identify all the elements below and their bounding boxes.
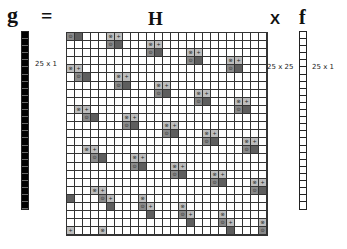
matrix-cell bbox=[155, 106, 163, 114]
matrix-cell bbox=[171, 195, 179, 203]
matrix-cell-x-icon: ⊗ bbox=[75, 106, 83, 114]
matrix-cell bbox=[131, 41, 139, 49]
matrix-cell bbox=[131, 211, 139, 219]
matrix-cell-dot-icon: ⊙ bbox=[259, 227, 267, 235]
vector-element bbox=[300, 75, 306, 82]
matrix-cell bbox=[107, 106, 115, 114]
matrix-cell bbox=[187, 130, 195, 138]
matrix-cell bbox=[107, 219, 115, 227]
matrix-cell bbox=[83, 98, 91, 106]
matrix-cell bbox=[227, 49, 235, 57]
matrix-cell-dot-icon: ⊙ bbox=[179, 211, 187, 219]
matrix-cell bbox=[83, 179, 91, 187]
matrix-cell bbox=[251, 227, 259, 235]
matrix-cell-x-icon: ⊗ bbox=[155, 82, 163, 90]
matrix-cell-x-icon: ⊗ bbox=[115, 73, 123, 81]
matrix-cell bbox=[83, 82, 91, 90]
vector-element bbox=[22, 82, 28, 89]
matrix-cell-x-icon: ⊗ bbox=[187, 49, 195, 57]
matrix-cell bbox=[211, 33, 219, 41]
matrix-cell bbox=[115, 138, 123, 146]
matrix-cell-x-icon: ⊗ bbox=[107, 33, 115, 41]
matrix-cell bbox=[107, 82, 115, 90]
matrix-cell bbox=[147, 90, 155, 98]
matrix-cell bbox=[195, 57, 203, 65]
matrix-cell bbox=[107, 138, 115, 146]
matrix-cell bbox=[195, 122, 203, 130]
matrix-cell bbox=[155, 227, 163, 235]
matrix-cell-x-icon: ⊗ bbox=[259, 219, 267, 227]
matrix-cell bbox=[251, 114, 259, 122]
matrix-cell-x-icon: ⊗ bbox=[163, 122, 171, 130]
matrix-cell bbox=[243, 227, 251, 235]
matrix-cell bbox=[203, 187, 211, 195]
matrix-cell bbox=[179, 41, 187, 49]
matrix-cell bbox=[211, 227, 219, 235]
matrix-cell bbox=[83, 33, 91, 41]
vector-element bbox=[22, 103, 28, 110]
matrix-cell bbox=[243, 41, 251, 49]
matrix-cell bbox=[203, 65, 211, 73]
matrix-cell bbox=[155, 187, 163, 195]
matrix-cell bbox=[155, 65, 163, 73]
matrix-cell bbox=[163, 106, 171, 114]
matrix-cell bbox=[99, 163, 107, 171]
matrix-cell bbox=[211, 146, 219, 154]
matrix-cell bbox=[131, 49, 139, 57]
matrix-cell bbox=[147, 163, 155, 171]
matrix-cell bbox=[107, 114, 115, 122]
matrix-cell bbox=[203, 98, 211, 106]
matrix-cell bbox=[195, 41, 203, 49]
matrix-cell bbox=[227, 138, 235, 146]
matrix-cell bbox=[251, 203, 259, 211]
matrix-cell bbox=[155, 122, 163, 130]
matrix-cell bbox=[99, 179, 107, 187]
matrix-cell bbox=[219, 33, 227, 41]
matrix-cell bbox=[219, 179, 227, 187]
matrix-cell-plus-icon: + bbox=[83, 106, 91, 114]
matrix-cell bbox=[67, 82, 75, 90]
vector-element bbox=[22, 96, 28, 103]
matrix-cell bbox=[187, 195, 195, 203]
matrix-cell bbox=[75, 195, 83, 203]
matrix-cell bbox=[203, 146, 211, 154]
matrix-cell bbox=[179, 114, 187, 122]
matrix-cell bbox=[67, 203, 75, 211]
matrix-cell bbox=[195, 106, 203, 114]
matrix-cell bbox=[107, 49, 115, 57]
vector-element bbox=[300, 181, 306, 188]
matrix-cell bbox=[155, 146, 163, 154]
matrix-cell-plus-icon: + bbox=[107, 195, 115, 203]
matrix-cell bbox=[195, 33, 203, 41]
matrix-cell bbox=[259, 114, 267, 122]
matrix-cell bbox=[139, 138, 147, 146]
matrix-cell bbox=[147, 82, 155, 90]
matrix-cell bbox=[147, 146, 155, 154]
matrix-cell bbox=[171, 130, 179, 138]
matrix-cell bbox=[219, 138, 227, 146]
matrix-cell bbox=[91, 82, 99, 90]
matrix-cell bbox=[131, 57, 139, 65]
matrix-cell bbox=[123, 211, 131, 219]
matrix-cell bbox=[123, 41, 131, 49]
matrix-cell bbox=[155, 98, 163, 106]
matrix-cell bbox=[227, 33, 235, 41]
matrix-cell bbox=[75, 41, 83, 49]
matrix-cell bbox=[195, 73, 203, 81]
matrix-cell bbox=[91, 57, 99, 65]
matrix-cell bbox=[155, 57, 163, 65]
matrix-cell-plus-icon: + bbox=[163, 82, 171, 90]
matrix-cell bbox=[211, 154, 219, 162]
matrix-cell bbox=[131, 219, 139, 227]
matrix-cell bbox=[251, 98, 259, 106]
matrix-cell bbox=[227, 179, 235, 187]
vector-element bbox=[22, 181, 28, 188]
matrix-cell bbox=[171, 211, 179, 219]
matrix-cell-plus-icon: + bbox=[211, 130, 219, 138]
matrix-cell-x-icon: ⊗ bbox=[179, 203, 187, 211]
matrix-cell bbox=[91, 171, 99, 179]
matrix-cell bbox=[171, 203, 179, 211]
matrix-cell-plus-icon: + bbox=[123, 73, 131, 81]
matrix-cell bbox=[115, 187, 123, 195]
matrix-cell bbox=[211, 211, 219, 219]
